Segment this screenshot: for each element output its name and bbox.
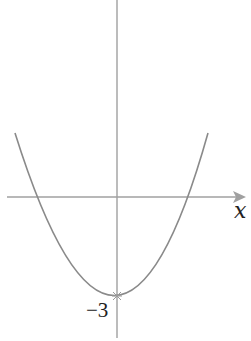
parabola-curve <box>15 133 208 296</box>
graph <box>0 0 251 341</box>
y-intercept-label: −3 <box>86 298 108 323</box>
x-axis-label: x <box>234 198 246 223</box>
